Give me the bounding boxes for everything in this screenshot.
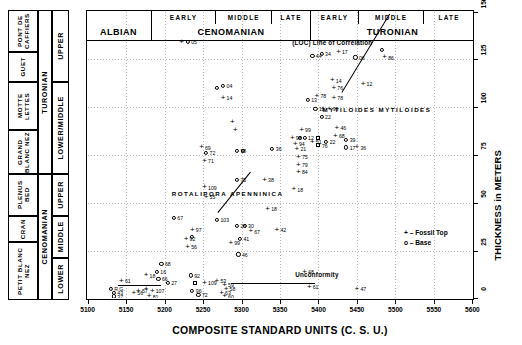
column-substage-2-label: UPPER: [57, 181, 65, 209]
data-point-base: [344, 138, 348, 142]
formation-cran-label: CRAN: [20, 219, 27, 239]
column-stage-cenomanian-label: CENOMANIAN: [41, 209, 49, 265]
data-point-label: 72: [210, 152, 216, 157]
stage-cell-turonian: TURONIAN: [311, 24, 474, 40]
data-point-label: 14: [336, 79, 342, 84]
grid-line-horizontal: [88, 59, 473, 60]
data-point-label: 04: [227, 85, 233, 90]
data-point-fossil-top: [131, 289, 136, 297]
data-point-base: [215, 218, 219, 222]
formation-petit-blanc-nez: PETIT BLANC NEZ: [8, 242, 38, 300]
data-point-base: [270, 147, 274, 151]
column-substage-3: MIDDLE: [52, 216, 69, 258]
data-point-fossil-top: [144, 271, 149, 279]
y-tick-mark: [474, 251, 478, 252]
grid-line-horizontal: [88, 251, 473, 252]
data-point-fossil-top: [215, 277, 220, 285]
data-point-fossil-top: [265, 205, 270, 213]
x-tick-label: 5200: [157, 306, 172, 313]
data-point-label: 21: [300, 148, 306, 153]
y-tick-mark: [474, 107, 478, 108]
column-substage-4: LOWER: [52, 258, 69, 300]
substage-cell-early: EARLY: [311, 10, 359, 24]
data-point-fossil-top: [333, 132, 338, 140]
data-point-label: 56: [191, 245, 197, 250]
annotation-unconformity: Unconformity: [295, 270, 338, 277]
data-point-label: 67: [177, 217, 183, 222]
formation-plenus-bed-label: PLENUS BED: [17, 175, 30, 215]
x-tick-mark: [357, 300, 358, 304]
data-point-label: 12: [367, 83, 373, 88]
grid-line-horizontal: [88, 203, 473, 204]
y-axis-label: THICKNESS in METERS: [492, 150, 503, 261]
data-point-fossil-top: [336, 48, 341, 56]
data-point-base: [344, 145, 348, 149]
x-tick-label: 5500: [388, 306, 403, 313]
formation-petit-blanc-nez-label: PETIT BLANC NEZ: [17, 243, 30, 299]
data-point-base: [379, 48, 383, 52]
plot-area: 0504146972719836751095538186797103253067…: [88, 12, 473, 299]
data-point-label: 18: [271, 207, 277, 212]
y-tick-mark: [474, 298, 478, 299]
data-point-base: [235, 149, 239, 153]
data-point-fossil-top: [299, 126, 304, 134]
data-point-fossil-top: [233, 126, 238, 134]
data-point-label: 71: [208, 159, 214, 164]
data-point-label: 92: [190, 238, 196, 243]
data-point-fossil-top: [199, 143, 204, 151]
data-point-label: 99: [234, 242, 240, 247]
legend-label: Base: [415, 239, 431, 246]
data-point-base: [235, 178, 239, 182]
x-tick-mark: [203, 300, 204, 304]
formation-pont-de-caffiers-label: PONT DE CAFFIERS: [17, 11, 30, 51]
data-point-fossil-top: [296, 168, 301, 176]
annotation-rotalipora-apenninica: ROTALIPORA APENNINICA: [172, 190, 284, 197]
legend-symbol: + –: [404, 229, 415, 236]
data-point-fossil-top: [355, 143, 360, 151]
annotation-mytiloides-mytiloides: MYTILOIDES MYTILOIDES: [323, 106, 432, 113]
data-point-label: 78: [337, 96, 343, 101]
data-point-base: [303, 136, 307, 140]
data-point-label: 41: [243, 238, 249, 243]
data-point-base: [166, 281, 170, 285]
data-point-label: 86: [388, 56, 394, 61]
unconformity-marker: [231, 283, 316, 284]
data-point-fossil-top: [202, 157, 207, 165]
data-point-label: 37: [117, 295, 123, 298]
data-point-base: [235, 224, 239, 228]
substage-cell-middle: MIDDLE: [359, 10, 424, 24]
data-point-label: 27: [171, 282, 177, 287]
data-point-base: [310, 53, 314, 57]
data-point-label: 46: [242, 253, 248, 258]
data-point-base: [156, 277, 160, 281]
x-tick-mark: [472, 300, 473, 304]
column-substage-2: UPPER: [52, 174, 69, 216]
data-point-base: [319, 52, 323, 56]
data-point-label: 81: [153, 295, 159, 298]
data-point-label: 60: [228, 295, 234, 298]
formation-motte-lettes-label: MOTTE LETTES: [17, 83, 30, 129]
data-point-fossil-top: [310, 138, 315, 146]
stage-cell-albian: ALBIAN: [86, 24, 152, 40]
x-tick-label: 5150: [119, 306, 134, 313]
data-point-fossil-top: [275, 226, 280, 234]
x-tick-mark: [88, 300, 89, 304]
x-tick-mark: [434, 300, 435, 304]
y-tick-mark: [474, 59, 478, 60]
y-tick-label: 75: [480, 142, 487, 149]
legend-item-fossil-top: + – Fossil Top: [404, 228, 448, 238]
data-point-label: 78: [320, 94, 326, 99]
data-point-label: 79: [302, 163, 308, 168]
y-tick-label: 150: [480, 0, 487, 8]
data-point-square: [193, 281, 197, 285]
data-point-fossil-top: [222, 292, 227, 298]
data-point-label: 67: [254, 230, 260, 235]
data-point-fossil-top: [119, 277, 124, 285]
data-point-label: 56: [137, 291, 143, 296]
formation-plenus-bed: PLENUS BED: [8, 174, 38, 216]
legend: + – Fossil Topo – Base: [404, 228, 448, 248]
data-point-fossil-top: [355, 285, 360, 293]
column-stage-turonian-label: TURONIAN: [41, 71, 49, 114]
data-point-label: 68: [165, 263, 171, 268]
substage-cell-late: LATE: [424, 10, 474, 24]
